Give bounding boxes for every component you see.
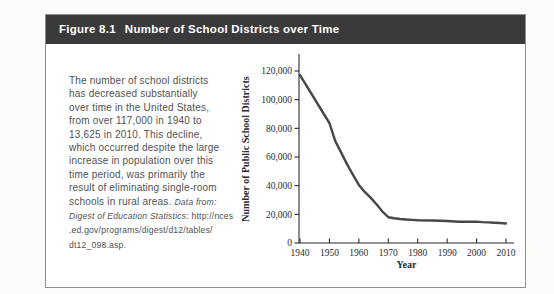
page-background: { "figure": { "label": "Figure 8.1", "ti… [0, 0, 554, 294]
figure-title: Number of School Districts over Time [125, 23, 340, 35]
x-tick-label: 2000 [467, 248, 486, 258]
x-tick-label: 1960 [349, 248, 368, 258]
figure-content: 020,00040,00060,00080,000100,000120,0001… [46, 44, 525, 287]
figure-panel: Figure 8.1Number of School Districts ove… [45, 14, 526, 288]
figure-number: Figure 8.1 [59, 23, 116, 35]
x-tick-label: 1980 [408, 248, 427, 258]
figure-description: The number of school districts has decre… [69, 74, 284, 252]
x-tick-label: 1990 [438, 248, 457, 258]
x-tick-label: 1950 [320, 248, 339, 258]
x-tick-label: 1940 [291, 248, 310, 258]
x-axis-title: Year [397, 259, 418, 270]
x-tick-label: 2010 [497, 248, 516, 258]
x-tick-label: 1970 [379, 248, 398, 258]
figure-header: Figure 8.1Number of School Districts ove… [46, 15, 525, 44]
y-tick-label: 0 [287, 238, 292, 248]
description-text: The number of school districts has decre… [69, 75, 219, 207]
data-line [300, 75, 506, 223]
